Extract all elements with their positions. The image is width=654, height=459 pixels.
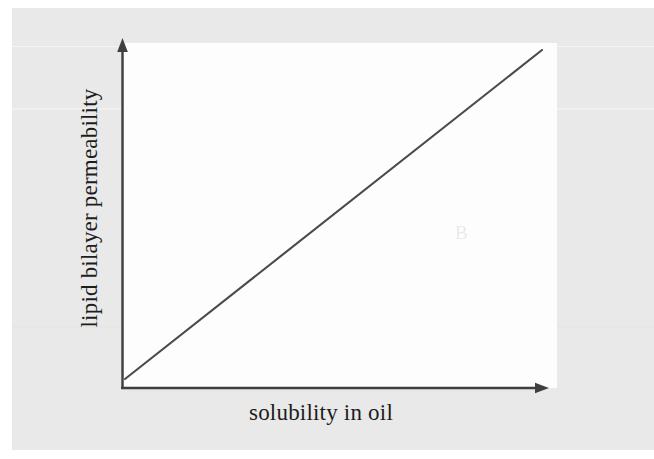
figure-root: B lipid bilayer permeability solubility …	[0, 0, 654, 459]
x-axis-arrowhead-icon	[535, 383, 549, 394]
x-axis-label-text: solubility in oil	[249, 400, 393, 425]
x-axis-label: solubility in oil	[0, 400, 654, 426]
y-axis-label: lipid bilayer permeability	[77, 89, 103, 328]
trend-line-series	[125, 50, 542, 379]
y-axis-arrowhead-icon	[117, 38, 128, 52]
